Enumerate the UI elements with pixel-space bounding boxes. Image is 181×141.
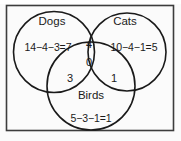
- venn-diagram-figure: Dogs Cats Birds 14−4−3=7 10−4−1=5 5−3−1=…: [0, 0, 181, 141]
- region-dogs-birds-value: 3: [67, 72, 73, 84]
- region-dogs-cats-value: 4: [86, 38, 92, 50]
- dogs-set-label: Dogs: [39, 15, 66, 27]
- region-all-three-value: 0: [86, 56, 92, 68]
- cats-set-label: Cats: [113, 15, 137, 27]
- region-cats-only-value: 10−4−1=5: [111, 41, 158, 53]
- region-cats-birds-value: 1: [111, 72, 117, 84]
- birds-set-label: Birds: [78, 89, 104, 101]
- venn-diagram-canvas: Dogs Cats Birds 14−4−3=7 10−4−1=5 5−3−1=…: [0, 0, 181, 141]
- region-dogs-only-value: 14−4−3=7: [25, 41, 72, 53]
- region-birds-only-value: 5−3−1=1: [70, 112, 111, 124]
